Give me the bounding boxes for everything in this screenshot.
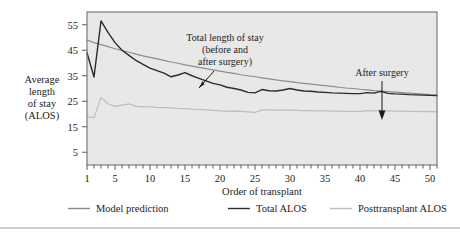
legend-label-0: Model prediction: [96, 203, 169, 214]
line-chart: 51525354555 15101520253035404550 Average…: [0, 0, 460, 232]
legend-label-1: Total ALOS: [256, 203, 307, 214]
y-tick-label: 45: [68, 45, 79, 56]
y-axis-title-line-2: length: [29, 86, 56, 97]
y-axis-title-line-3: of stay: [28, 98, 57, 109]
y-tick-label: 25: [68, 96, 79, 107]
y-tick-label: 15: [68, 122, 79, 133]
y-tick-label: 35: [68, 71, 79, 82]
x-tick-label: 35: [320, 173, 331, 184]
x-tick-label: 10: [145, 173, 156, 184]
annotation-total-line-1: Total length of stay: [186, 32, 263, 43]
annotation-total-line-2: (before and: [202, 44, 248, 56]
x-tick-label: 45: [390, 173, 401, 184]
annotation-total-line-3: after surgery): [198, 56, 252, 68]
x-tick-label: 1: [84, 173, 89, 184]
x-tick-label: 30: [285, 173, 296, 184]
x-tick-label: 15: [180, 173, 191, 184]
x-tick-label: 25: [250, 173, 261, 184]
chart-figure: 51525354555 15101520253035404550 Average…: [0, 0, 460, 232]
x-tick-label: 20: [215, 173, 226, 184]
x-tick-label: 50: [425, 173, 436, 184]
y-axis-title: Average length of stay (ALOS): [25, 74, 60, 122]
chart-legend: Model predictionTotal ALOSPosttransplant…: [68, 203, 447, 214]
y-axis-title-line-1: Average: [25, 74, 60, 85]
x-tick-label: 5: [112, 173, 117, 184]
y-tick-label: 55: [68, 20, 79, 31]
x-axis-title: Order of transplant: [222, 186, 302, 197]
legend-label-2: Posttransplant ALOS: [358, 203, 447, 214]
x-tick-label: 40: [355, 173, 366, 184]
y-axis-title-line-4: (ALOS): [25, 110, 60, 122]
y-tick-label: 5: [73, 147, 78, 158]
annotation-after-surgery-label: After surgery: [355, 67, 408, 78]
